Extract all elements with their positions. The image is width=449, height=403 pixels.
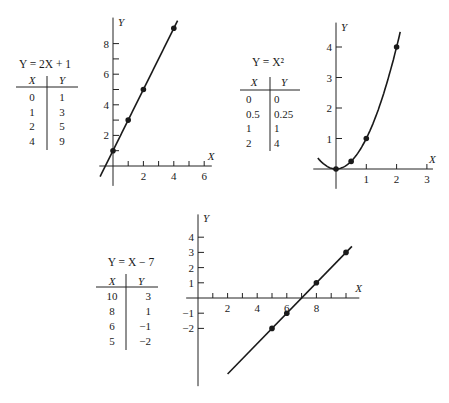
- data-point: [141, 87, 147, 93]
- y-tick-label: 1: [189, 277, 195, 289]
- data-point: [125, 117, 131, 123]
- function-line: [228, 246, 352, 374]
- table-cell: 3: [146, 290, 152, 302]
- table-cell: 5: [59, 120, 65, 132]
- table-cell: 1: [146, 305, 152, 317]
- table-cell: 9: [59, 135, 65, 147]
- table-cell: −1: [139, 320, 151, 332]
- table-cell: 3: [59, 106, 65, 118]
- y-axis-label: Y: [341, 21, 349, 33]
- function-graphs-figure: Y = 2X + 1 X Y 0 1 1 3 2 5 4 9 XY2462468…: [0, 0, 449, 403]
- table-cell: 5: [109, 335, 115, 347]
- table-cell: 0: [29, 91, 35, 103]
- table-cell: 1: [59, 91, 65, 103]
- table-cell: 1: [246, 122, 252, 134]
- y-tick-label: −2: [182, 322, 194, 334]
- y-tick-label: 4: [189, 231, 195, 243]
- equation-title: Y = 2X + 1: [19, 58, 71, 70]
- table-cell: 4: [29, 135, 35, 147]
- function-line: [100, 21, 178, 177]
- y-tick-label: 3: [189, 246, 195, 258]
- x-tick-label: 1: [364, 173, 370, 185]
- y-axis-label: Y: [203, 212, 211, 224]
- y-tick-label: 6: [104, 68, 110, 80]
- x-tick-label: 4: [171, 170, 177, 182]
- plot-area: XY2462468: [99, 16, 215, 186]
- equation-title: Y = X²: [252, 56, 284, 68]
- y-tick-label: 4: [104, 99, 110, 111]
- y-tick-label: 2: [327, 102, 333, 114]
- data-point: [394, 44, 400, 50]
- table-cell: 0.5: [246, 108, 260, 120]
- data-point: [110, 148, 116, 154]
- panel-linear-2x-plus-1: Y = 2X + 1 X Y 0 1 1 3 2 5 4 9 XY2462468: [16, 16, 216, 186]
- x-tick-label: 4: [254, 302, 260, 314]
- data-point: [333, 166, 339, 172]
- table-cell: 10: [107, 290, 119, 302]
- table-header-y: Y: [59, 74, 67, 86]
- data-point: [343, 250, 349, 256]
- table-cell: −2: [139, 335, 151, 347]
- data-point: [314, 280, 320, 286]
- table-cell: 4: [274, 137, 280, 149]
- plot-area: XY1231234: [313, 21, 437, 189]
- x-tick-label: 8: [314, 302, 320, 314]
- table-header-y: Y: [138, 275, 146, 287]
- data-point: [284, 310, 290, 316]
- x-tick-label: 2: [394, 173, 400, 185]
- x-tick-label: 2: [225, 302, 231, 314]
- x-axis-label: X: [207, 150, 216, 162]
- panel-quadratic-x-squared: Y = X² X Y 0 0 0.5 0.25 1 1 2 4 XY123123…: [240, 21, 437, 189]
- data-point: [269, 326, 275, 332]
- y-tick-label: 2: [189, 262, 195, 274]
- y-tick-label: 3: [327, 72, 333, 84]
- y-tick-label: 2: [104, 129, 110, 141]
- table-cell: 1: [274, 122, 280, 134]
- table-header-x: X: [108, 275, 117, 287]
- data-point: [171, 26, 177, 32]
- table-cell: 0: [274, 93, 280, 105]
- table-cell: 0: [246, 93, 252, 105]
- x-tick-label: 6: [201, 170, 207, 182]
- y-axis-label: Y: [118, 16, 126, 28]
- x-axis-label: X: [428, 153, 437, 165]
- data-point: [364, 136, 370, 142]
- equation-title: Y = X − 7: [108, 256, 155, 268]
- data-point: [348, 159, 354, 165]
- table-cell: 2: [246, 137, 252, 149]
- table-header-x: X: [250, 76, 259, 88]
- panel-linear-x-minus-7: Y = X − 7 X Y 10 3 8 1 6 −1 5 −2 XY2468−…: [96, 212, 363, 386]
- x-axis-label: X: [354, 282, 363, 294]
- y-tick-label: 4: [327, 41, 333, 53]
- y-tick-label: 8: [104, 38, 110, 50]
- table-cell: 2: [29, 120, 35, 132]
- table-cell: 6: [109, 320, 115, 332]
- x-tick-label: 2: [141, 170, 147, 182]
- table-header-y: Y: [281, 76, 289, 88]
- table-cell: 1: [29, 106, 35, 118]
- y-tick-label: −1: [182, 307, 194, 319]
- table-cell: 0.25: [274, 108, 294, 120]
- plot-area: XY2468−2−11234: [182, 212, 363, 386]
- x-tick-label: 3: [424, 173, 430, 185]
- table-header-x: X: [28, 74, 37, 86]
- y-tick-label: 1: [327, 133, 333, 145]
- table-cell: 8: [109, 305, 115, 317]
